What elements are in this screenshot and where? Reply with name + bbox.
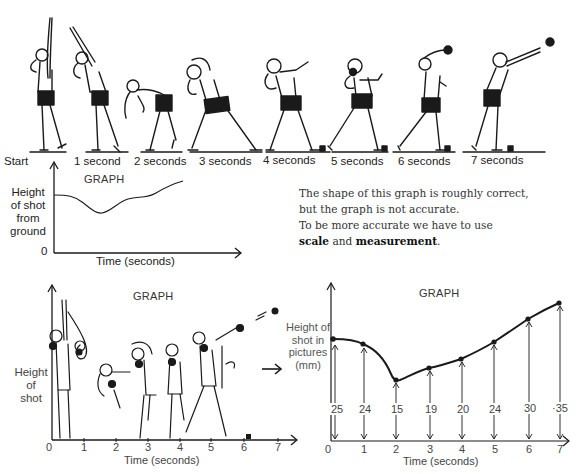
tick-label: 5 [489,443,501,455]
note-bold-measurement: measurement [356,235,437,247]
measured-graph [327,283,569,446]
shot-ball-released-icon [272,308,279,315]
frame-label-5s: 5 seconds [331,155,383,167]
note-line-4: scale and measurement. [299,233,574,249]
sketch-curve [54,181,183,213]
note-line-1: The shape of this graph is roughly corre… [299,185,574,201]
transfer-label-line: shot in [280,334,336,347]
value-label: 24 [484,403,506,415]
value-label: ·35 [549,402,571,414]
tick-label: 3 [142,441,154,453]
measured-curve [333,303,559,380]
tick-label: 5 [205,441,217,453]
measurement-arrows [332,306,563,439]
tick-label: 4 [174,441,186,453]
sketch-x-label: Time (seconds) [96,255,175,267]
frame-label-2s: 2 seconds [134,155,186,167]
note-line-2: but the graph is not accurate. [299,201,574,217]
shot-ball-icon [546,38,554,46]
tick-label: 2 [390,443,402,455]
sketch-y-label-line: from [4,212,52,225]
pictures-graph [48,285,297,445]
note-bold-scale: scale [299,235,329,247]
athlete-figure-3s [187,58,262,150]
sketch-graph [50,162,241,258]
note-end: . [437,235,440,247]
tick-label: 1 [78,441,90,453]
tick-label: 2 [110,441,122,453]
frame-label-6s: 6 seconds [398,155,450,167]
right-arrow-icon [262,364,281,374]
value-label: 30 [519,402,541,414]
tick-label: 6 [238,441,250,453]
sketch-y-label-line: Height [4,186,52,199]
tick-label: 1 [358,443,370,455]
data-points [330,300,561,382]
frame-label-3s: 3 seconds [199,155,251,167]
value-label: 25 [326,403,348,415]
pictures-y-label-line: Height [10,366,52,379]
tick-label: 0 [322,443,334,455]
athlete-figure-7s [472,48,540,151]
athlete-figure-5s [328,59,387,151]
athlete-figure-1s [70,27,120,152]
athlete-figure-start [31,18,66,150]
sketch-origin-label: 0 [41,245,47,257]
value-label: 20 [452,403,474,415]
value-label: 24 [354,403,376,415]
frame-label-7s: 7 seconds [471,154,523,166]
pictures-y-label-line: shot [10,392,52,405]
tick-label: 0 [43,441,55,453]
sketch-graph-title: GRAPH [84,173,125,185]
tick-label: 6 [523,443,535,455]
sketch-y-label-line: of shot [4,199,52,212]
transfer-label-line: Height of [280,321,336,334]
athlete-figure-2s [125,80,176,150]
value-label: 19 [420,403,442,415]
frame-label-4s: 4 seconds [263,154,315,166]
sketch-y-label: Height of shot from ground [4,186,52,238]
explanation-note: The shape of this graph is roughly corre… [299,185,574,249]
value-label: 15 [386,403,408,415]
tick-label: 7 [272,441,284,453]
transfer-label: Height of shot in pictures (mm) [280,321,336,371]
pictures-x-label: Time (seconds) [124,454,199,466]
transfer-label-line: (mm) [280,359,336,372]
pictures-y-label: Height of shot [10,366,52,405]
note-line-3: To be more accurate we have to use [299,217,574,233]
athlete-figure-6s [398,46,452,151]
frame-label-1s: 1 second [74,155,121,167]
tick-label: 7 [554,443,566,455]
measured-x-label: Time (seconds) [403,455,478,467]
tick-label: 3 [424,443,436,455]
athlete-figure-4s [265,59,325,151]
measured-graph-title: GRAPH [419,287,460,299]
tick-label: 4 [456,443,468,455]
transfer-label-line: pictures [280,346,336,359]
pictures-y-label-line: of [10,379,52,392]
frame-label-start: Start [4,155,28,167]
pictures-graph-title: GRAPH [133,290,174,302]
note-mid-text: and [329,235,356,247]
sketch-y-label-line: ground [4,225,52,238]
